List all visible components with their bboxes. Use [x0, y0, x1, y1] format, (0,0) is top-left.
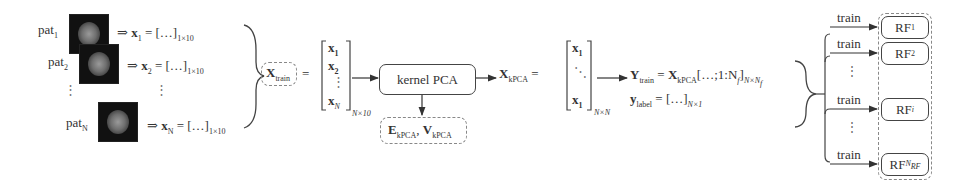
- matrix1-vdots: ⋮: [332, 74, 345, 90]
- patient-label-1: pat1: [38, 22, 58, 40]
- ylabel-equation: ylabel = […]N×1: [630, 91, 702, 109]
- train-label-2: train: [837, 36, 861, 52]
- patient-label-n: patN: [66, 115, 88, 133]
- vdots-vectors: ⋮: [155, 82, 168, 98]
- matrix1-row-n: xN: [328, 93, 340, 111]
- patient-vector-1: ⇒ x1 = […]1×10: [117, 25, 194, 43]
- matrix2-row-n: x1: [572, 92, 583, 110]
- patient-vector-n: ⇒ xN = […]1×10: [147, 118, 225, 136]
- xtrain-equals: =: [302, 66, 309, 82]
- patient-label-2: pat2: [48, 54, 68, 72]
- mri-image-n: [98, 102, 138, 142]
- rf-model-n: RFNRF: [881, 153, 929, 176]
- eigen-label: EkPCA, VkPCA: [388, 122, 452, 140]
- xkpca-symbol: XkPCA =: [499, 66, 539, 84]
- rf-model-1: RF1: [881, 16, 929, 39]
- rf-model-2: RF2: [881, 42, 929, 65]
- matrix2-row-1: x1: [572, 40, 583, 58]
- kernel-pca-box: kernel PCA: [379, 64, 476, 95]
- matrix1-row-1: x1: [328, 40, 339, 58]
- train-label-1: train: [837, 10, 861, 26]
- rf-model-i: RFi: [881, 98, 929, 121]
- train-label-i: train: [837, 92, 861, 108]
- ytrain-equation: Ytrain = XkPCA[…;1:Nf]N×Nf: [630, 67, 762, 87]
- xtrain-symbol: Xtrain: [266, 65, 290, 83]
- svg-text:⋮: ⋮: [846, 120, 858, 134]
- vdots-patients: ⋮: [64, 82, 77, 98]
- train-label-n: train: [837, 147, 861, 163]
- svg-text:⋮: ⋮: [846, 64, 858, 78]
- matrix2-dim: N×N: [594, 108, 610, 117]
- mri-image-2: [79, 44, 119, 84]
- matrix2-ddots: ⋱: [574, 64, 587, 80]
- matrix1-row-2: x2: [328, 58, 339, 76]
- matrix1-dim: N×10: [352, 109, 371, 118]
- patient-vector-2: ⇒ x2 = […]1×10: [127, 58, 204, 76]
